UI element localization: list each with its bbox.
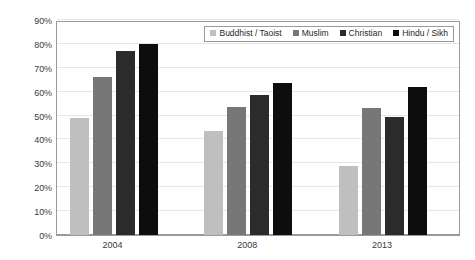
bar <box>385 117 404 235</box>
legend-swatch-icon <box>393 30 399 36</box>
y-tick-label: 30% <box>0 159 52 169</box>
y-tick-label: 90% <box>0 16 52 26</box>
x-tick-label: 2013 <box>372 240 392 250</box>
y-axis: 0%10%20%30%40%50%60%70%80%90% <box>0 21 52 236</box>
legend-swatch-icon <box>293 30 299 36</box>
y-tick-label: 0% <box>0 231 52 241</box>
bar <box>227 107 246 235</box>
chart-legend: Buddhist / TaoistMuslimChristianHindu / … <box>204 26 454 42</box>
legend-item[interactable]: Christian <box>340 29 383 38</box>
bar <box>408 87 427 235</box>
gridline-90% <box>57 19 459 20</box>
plot-area: Buddhist / TaoistMuslimChristianHindu / … <box>56 21 460 236</box>
y-tick-label: 60% <box>0 88 52 98</box>
legend-item[interactable]: Buddhist / Taoist <box>210 29 281 38</box>
bar <box>204 131 223 235</box>
y-tick-label: 40% <box>0 135 52 145</box>
bar <box>116 51 135 235</box>
x-tick-label: 2008 <box>237 240 257 250</box>
legend-label: Hindu / Sikh <box>402 29 448 38</box>
bar <box>362 108 381 235</box>
y-tick-label: 70% <box>0 64 52 74</box>
legend-label: Buddhist / Taoist <box>219 29 281 38</box>
legend-swatch-icon <box>340 30 346 36</box>
legend-label: Muslim <box>302 29 329 38</box>
legend-item[interactable]: Hindu / Sikh <box>393 29 448 38</box>
bar <box>339 166 358 235</box>
y-tick-label: 20% <box>0 183 52 193</box>
y-tick-label: 80% <box>0 40 52 50</box>
x-tick-label: 2004 <box>103 240 123 250</box>
y-tick-label: 10% <box>0 207 52 217</box>
bar <box>70 118 89 235</box>
bar <box>93 77 112 235</box>
x-axis: 200420082013 <box>56 240 460 258</box>
bars-layer <box>57 22 459 235</box>
bar <box>250 95 269 235</box>
y-tick-label: 50% <box>0 112 52 122</box>
bar <box>273 83 292 235</box>
legend-item[interactable]: Muslim <box>293 29 329 38</box>
legend-label: Christian <box>349 29 383 38</box>
legend-swatch-icon <box>210 30 216 36</box>
bar-chart: 0%10%20%30%40%50%60%70%80%90% Buddhist /… <box>0 0 475 260</box>
bar <box>139 44 158 235</box>
